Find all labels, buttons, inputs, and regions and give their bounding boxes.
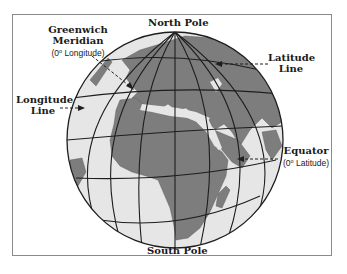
longitude-label-2: Line bbox=[16, 105, 70, 116]
equator-title: Equator bbox=[280, 145, 332, 156]
latitude-line-label: Latitude Line bbox=[268, 52, 314, 74]
north-pole-label: North Pole bbox=[148, 17, 209, 28]
latitude-label-1: Latitude bbox=[268, 52, 314, 63]
equator-subtitle: (0o Latitude) bbox=[280, 156, 332, 168]
greenwich-title-1: Greenwich bbox=[46, 24, 110, 35]
longitude-line-label: Longitude Line bbox=[16, 94, 70, 116]
greenwich-label: Greenwich Meridian (0o Longitude) bbox=[46, 24, 110, 58]
equator-label: Equator (0o Latitude) bbox=[280, 145, 332, 168]
greenwich-title-2: Meridian bbox=[46, 35, 110, 46]
longitude-label-1: Longitude bbox=[16, 94, 70, 105]
greenwich-subtitle: (0o Longitude) bbox=[46, 46, 110, 58]
latitude-label-2: Line bbox=[268, 63, 314, 74]
south-pole-label: South Pole bbox=[147, 245, 208, 256]
